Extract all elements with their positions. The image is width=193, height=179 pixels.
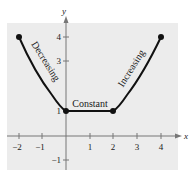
y-tick-label: −1: [51, 155, 61, 165]
x-tick-label: 1: [88, 142, 93, 152]
x-tick-label: 3: [135, 142, 140, 152]
data-point: [63, 108, 69, 114]
data-point: [158, 34, 164, 40]
x-tick-label: −1: [35, 142, 45, 152]
y-axis-label: y: [61, 6, 66, 16]
data-point: [110, 108, 116, 114]
x-tick-label: −2: [12, 142, 22, 152]
x-axis-arrow-icon: [175, 134, 182, 139]
y-tick-label: 3: [57, 56, 62, 66]
y-axis-arrow-icon: [64, 16, 69, 23]
chart: x y −2 −1 1 2 3 4 4 3 1 −1: [0, 0, 193, 179]
y-tick-label: 4: [57, 32, 62, 42]
annotation-constant: Constant: [72, 98, 108, 109]
x-tick-label: 2: [111, 142, 116, 152]
x-tick-label: 4: [159, 142, 164, 152]
data-point: [16, 34, 22, 40]
x-axis-label: x: [183, 131, 188, 141]
